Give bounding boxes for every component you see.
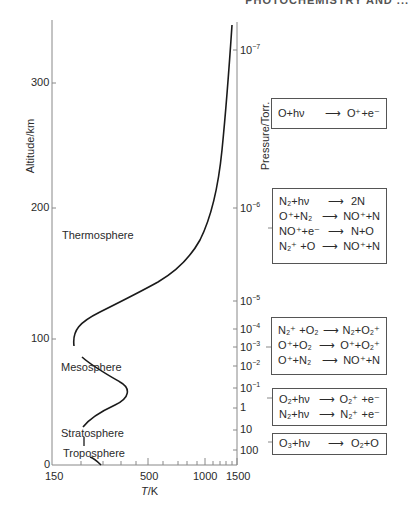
pressure-tick-1e-4: 10−4 [240,322,260,335]
altitude-axis-label: Altitude/km [24,106,36,186]
reactants: N₂⁺ +O [279,239,316,254]
reaction-row: N₂⁺ +O ⟶ NO⁺+N [279,239,380,254]
reaction-row: O₃+hν ⟶ O₂+O [279,436,380,451]
reaction-row: O⁺+O₂ ⟶ O⁺+O₂⁺ [278,338,380,353]
pressure-tick-1: 1 [240,401,246,413]
products: N+O [351,224,374,239]
products: NO⁺+N [343,209,380,224]
arrow-icon: ⟶ [314,338,340,353]
reactants: N₂⁺ +O₂ [278,323,319,338]
pressure-tick-10: 10 [240,423,252,435]
pressure-tick-1e-6: 10−6 [240,201,260,214]
reactants: NO⁺+e⁻ [279,224,321,239]
reaction-box-mesosphere: N₂⁺ +O₂ ⟶ N₂+O₂⁺ O⁺+O₂ ⟶ O⁺+O₂⁺ O⁺+N₂ ⟶ … [271,317,387,375]
altitude-tick-200: 200 [31,201,49,213]
arrow-icon: ⟶ [319,323,343,338]
pressure-axis-label: Pressure/Torr. [259,86,271,186]
temperature-unit: /K [148,485,158,497]
troposphere-label: Troposphere [63,447,125,459]
reactants: O⁺+O₂ [278,338,314,353]
temperature-profile-curve [74,25,232,465]
temperature-tick-150: 150 [45,470,63,482]
pressure-tick-1e-7: 10−7 [240,43,260,56]
products: N₂⁺ +e⁻ [340,407,380,422]
arrow-icon: ⟶ [316,209,343,224]
arrow-icon: ⟶ [321,224,351,239]
reactants: O+hν [278,106,318,121]
pressure-tick-1e-3: 10−3 [240,340,260,353]
stratosphere-label: Stratosphere [61,427,124,439]
reactants: O₃+hν [279,436,321,451]
arrow-icon: ⟶ [318,106,347,121]
products: NO⁺+N [343,239,380,254]
temperature-symbol: T [141,485,148,497]
altitude-tick-0: 0 [44,458,50,470]
reactants: O₂+hν [279,392,314,407]
pressure-tick-1e-2: 10−2 [240,359,260,372]
arrow-icon: ⟶ [316,353,343,368]
reaction-box-stratosphere: O₂+hν ⟶ O₂⁺ +e⁻ N₂+hν ⟶ N₂⁺ +e⁻ [272,388,387,426]
altitude-ticks [52,83,56,339]
arrow-icon: ⟶ [321,436,351,451]
products: O⁺+O₂⁺ [340,338,380,353]
atmosphere-figure: PHOTOCHEMISTRY AND ... [0,0,409,517]
products: 2N [351,194,365,209]
pressure-tick-1e-1: 10−1 [240,381,260,394]
reaction-box-thermosphere-lower: N₂+hν ⟶ 2N O⁺+N₂ ⟶ NO⁺+N NO⁺+e⁻ ⟶ N+O N₂… [272,188,387,264]
reactants: O⁺+N₂ [279,209,316,224]
reactants: O⁺+N₂ [278,353,316,368]
products: N₂+O₂⁺ [343,323,380,338]
altitude-tick-300: 300 [31,76,49,88]
reaction-row: NO⁺+e⁻ ⟶ N+O [279,224,380,239]
temperature-tick-500: 500 [140,470,158,482]
temperature-ticks [81,458,237,465]
products: O⁺+e⁻ [347,106,380,121]
arrow-icon: ⟶ [315,407,341,422]
products: O₂⁺ +e⁻ [340,392,380,407]
products: NO⁺+N [343,353,380,368]
temperature-tick-1000: 1000 [193,470,217,482]
products: O₂+O [351,436,379,451]
reactants: N₂+hν [279,407,315,422]
reaction-row: O⁺+N₂ ⟶ NO⁺+N [279,209,380,224]
temperature-axis-label: T/K [141,485,158,497]
altitude-tick-100: 100 [31,332,49,344]
pressure-tick-100: 100 [240,444,258,456]
reaction-row: O₂+hν ⟶ O₂⁺ +e⁻ [279,392,380,407]
mesosphere-label: Mesosphere [61,361,122,373]
reaction-row: N₂+hν ⟶ N₂⁺ +e⁻ [279,407,380,422]
temperature-tick-1500: 1500 [226,470,250,482]
arrow-icon: ⟶ [314,392,339,407]
pressure-tick-1e-5: 10−5 [240,294,260,307]
reaction-box-thermosphere-upper: O+hν ⟶ O⁺+e⁻ [271,98,387,129]
reaction-row: N₂⁺ +O₂ ⟶ N₂+O₂⁺ [278,323,380,338]
reaction-box-ozone: O₃+hν ⟶ O₂+O [272,433,387,455]
pressure-ticks [233,50,237,450]
thermosphere-label: Thermosphere [62,229,134,241]
reaction-row: O+hν ⟶ O⁺+e⁻ [278,106,380,121]
arrow-icon: ⟶ [321,194,351,209]
arrow-icon: ⟶ [316,239,343,254]
reaction-row: N₂+hν ⟶ 2N [279,194,380,209]
reaction-row: O⁺+N₂ ⟶ NO⁺+N [278,353,380,368]
reactants: N₂+hν [279,194,321,209]
